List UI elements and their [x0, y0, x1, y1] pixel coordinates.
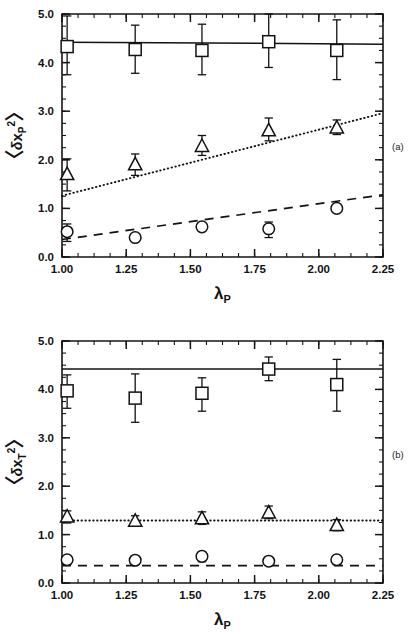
data-point: [196, 551, 208, 563]
data-point: [263, 357, 275, 381]
series-circle: [61, 551, 342, 567]
data-point: [196, 378, 208, 411]
data-point: [129, 554, 141, 566]
y-axis-title: 〈δxT2〉: [4, 429, 28, 496]
panel-a: 1.001.251.501.752.002.250.01.02.03.04.05…: [4, 8, 404, 305]
y-tick-label: 1.0: [38, 202, 54, 214]
y-tick-label: 1.0: [38, 529, 54, 541]
y-tick-label: 2.0: [38, 154, 54, 166]
data-point: [61, 554, 73, 566]
data-point: [129, 232, 141, 244]
x-tick-label: 1.00: [51, 263, 73, 275]
series-circle: [61, 203, 342, 244]
data-point: [61, 375, 73, 408]
marker-backing: [129, 392, 141, 404]
x-tick-label: 2.25: [372, 589, 395, 601]
marker-backing: [61, 385, 73, 397]
x-tick-label: 2.00: [308, 263, 330, 275]
x-axis-title: λP: [214, 610, 231, 631]
marker-backing: [129, 157, 142, 169]
y-tick-label: 5.0: [38, 8, 54, 20]
x-tick-label: 2.25: [372, 263, 395, 275]
series-triangle: [61, 506, 344, 531]
panel-tag-a: (a): [392, 141, 404, 152]
x-tick-label: 1.25: [115, 263, 138, 275]
data-point: [195, 136, 208, 156]
fit-line-circle: [62, 195, 383, 240]
y-tick-label: 4.0: [38, 383, 54, 395]
series-square: [61, 14, 343, 80]
y-tick-label: 3.0: [38, 432, 54, 444]
x-tick-label: 1.25: [115, 589, 138, 601]
data-point: [129, 374, 141, 422]
marker-backing: [331, 44, 343, 56]
marker-backing: [196, 44, 208, 56]
data-point: [262, 118, 275, 141]
data-point: [129, 154, 142, 175]
data-point: [330, 120, 343, 135]
x-axis-title: λP: [214, 284, 231, 305]
data-point: [331, 554, 343, 566]
data-point: [331, 203, 343, 215]
data-point: [263, 555, 275, 567]
data-point: [263, 222, 275, 238]
data-point: [129, 25, 141, 73]
marker-backing: [129, 43, 141, 55]
x-tick-label: 1.00: [51, 589, 73, 601]
figure-root: 1.001.251.501.752.002.250.01.02.03.04.05…: [0, 0, 417, 635]
y-tick-label: 0.0: [38, 251, 54, 263]
data-point: [195, 511, 208, 524]
data-point: [331, 20, 343, 80]
fit-lines: [62, 369, 383, 566]
series-square: [61, 357, 343, 422]
series-triangle: [61, 118, 344, 191]
x-tick-label: 2.00: [308, 589, 330, 601]
x-tick-label: 1.75: [243, 589, 266, 601]
data-point: [196, 24, 208, 75]
x-tick-label: 1.75: [243, 263, 266, 275]
x-tick-label: 1.50: [179, 263, 201, 275]
panel-tag-b: (b): [392, 449, 404, 460]
y-tick-label: 3.0: [38, 105, 54, 117]
marker-backing: [262, 123, 275, 135]
marker-backing: [262, 506, 275, 518]
y-tick-label: 5.0: [38, 335, 54, 347]
data-point: [331, 359, 343, 411]
marker-backing: [331, 379, 343, 391]
data-point: [61, 16, 73, 75]
y-axis-title: 〈δxP2〉: [4, 102, 28, 169]
y-tick-label: 2.0: [38, 480, 54, 492]
marker-backing: [61, 41, 73, 53]
marker-backing: [263, 36, 275, 48]
axes-frame: [62, 341, 383, 583]
marker-backing: [263, 363, 275, 375]
marker-backing: [195, 139, 208, 151]
data-point: [262, 506, 275, 519]
marker-backing: [330, 121, 343, 133]
plot-border: [62, 341, 383, 583]
data-point: [263, 14, 275, 67]
panel-b: 1.001.251.501.752.002.250.01.02.03.04.05…: [4, 335, 404, 631]
y-tick-label: 0.0: [38, 577, 54, 589]
marker-backing: [195, 511, 208, 523]
x-tick-label: 1.50: [179, 589, 201, 601]
y-tick-label: 4.0: [38, 57, 54, 69]
data-point: [196, 221, 208, 233]
marker-backing: [196, 387, 208, 399]
scientific-figure: 1.001.251.501.752.002.250.01.02.03.04.05…: [0, 0, 417, 635]
